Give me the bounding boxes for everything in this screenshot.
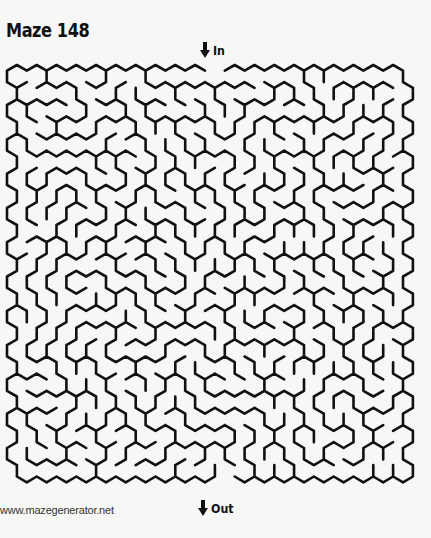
site-credit: www.mazegenerator.net <box>0 504 114 516</box>
exit-label: Out <box>211 501 234 516</box>
maze-walls <box>7 65 413 482</box>
down-arrow-icon <box>198 500 208 516</box>
exit-marker: Out <box>198 500 238 516</box>
maze-grid <box>0 0 431 538</box>
